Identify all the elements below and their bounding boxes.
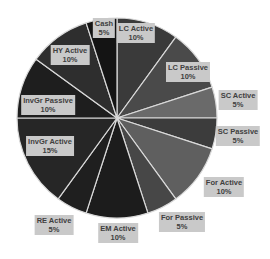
pie-slices	[17, 18, 217, 218]
slice-label-sc-active: SC Active5%	[219, 90, 258, 110]
slice-label-re-active: RE Active5%	[35, 215, 74, 235]
slice-label-name: LC Active	[119, 24, 153, 33]
slice-label-value: 10%	[23, 105, 73, 114]
slice-label-invgr-passive: InvGr Passive10%	[21, 95, 75, 115]
slice-label-name: EM Active	[100, 224, 136, 233]
slice-label-value: 10%	[206, 187, 242, 196]
slice-label-name: For Active	[206, 178, 242, 187]
slice-label-value: 5%	[161, 222, 203, 231]
slice-label-value: 10%	[100, 233, 136, 242]
slice-label-value: 10%	[168, 72, 208, 81]
slice-label-name: RE Active	[37, 216, 72, 225]
slice-label-value: 5%	[37, 225, 72, 234]
slice-label-name: InvGr Passive	[23, 96, 73, 105]
slice-label-value: 10%	[53, 55, 88, 64]
slice-label-lc-passive: LC Passive10%	[166, 62, 210, 82]
slice-label-lc-active: LC Active10%	[117, 23, 155, 43]
slice-label-value: 15%	[28, 146, 72, 155]
slice-label-name: For Passive	[161, 213, 203, 222]
slice-label-sc-passive: SC Passive5%	[216, 126, 260, 146]
slice-label-name: HY Active	[53, 46, 88, 55]
slice-label-cash: Cash5%	[93, 18, 115, 38]
slice-label-name: Cash	[95, 19, 113, 28]
slice-label-for-active: For Active10%	[204, 177, 244, 197]
slice-label-value: 10%	[119, 33, 153, 42]
slice-label-value: 5%	[218, 136, 258, 145]
slice-label-value: 5%	[95, 28, 113, 37]
slice-label-name: SC Active	[221, 91, 256, 100]
slice-label-em-active: EM Active10%	[98, 223, 138, 243]
slice-label-for-passive: For Passive5%	[159, 212, 205, 232]
slice-label-name: SC Passive	[218, 127, 258, 136]
slice-label-name: LC Passive	[168, 63, 208, 72]
slice-label-name: InvGr Active	[28, 137, 72, 146]
slice-label-hy-active: HY Active10%	[51, 45, 90, 65]
slice-label-invgr-active: InvGr Active15%	[26, 136, 74, 156]
slice-label-value: 5%	[221, 100, 256, 109]
